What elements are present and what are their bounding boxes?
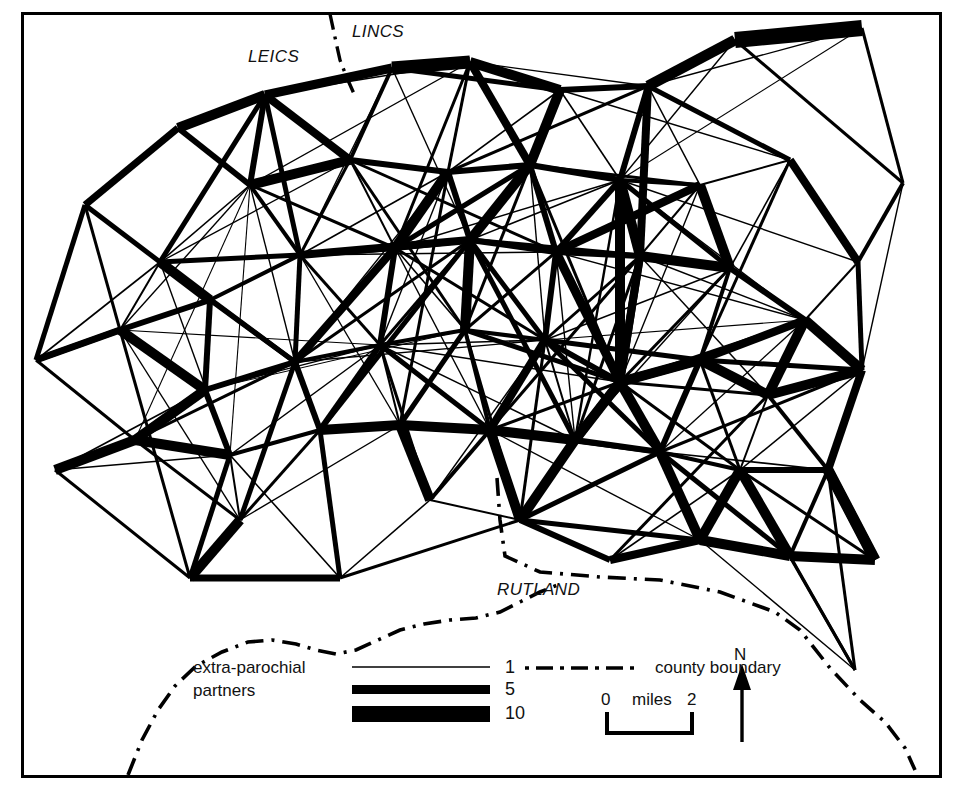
county-label-lincs: LINCS [352,22,404,42]
legend-weight-1-value: 1 [505,657,515,678]
legend-swatch-10 [352,706,490,722]
scale-bar-unit-label: miles [632,690,672,710]
map-figure: LEICS LINCS RUTLAND extra-parochial part… [0,0,956,792]
network-edge-heavy [392,62,470,68]
network-map-canvas [0,0,956,792]
legend-swatch-5 [352,685,490,694]
north-arrow-label: N [734,645,746,665]
legend-partners-label-line2: partners [193,681,255,701]
legend-weight-5-value: 5 [505,679,515,700]
legend-county-boundary-label: county boundary [655,658,781,678]
scale-bar-left-label: 0 [601,690,610,710]
network-edge [556,252,640,256]
legend-weight-10-value: 10 [505,703,525,724]
network-edge [400,425,490,430]
network-edge [560,86,648,90]
legend-partners-label-line1: extra-parochial [193,658,305,678]
network-edge [320,425,400,430]
network-edge [465,240,470,330]
scale-bar-right-label: 2 [687,690,696,710]
network-edge [790,556,875,560]
county-label-leics: LEICS [248,47,299,67]
county-label-rutland: RUTLAND [497,580,580,600]
